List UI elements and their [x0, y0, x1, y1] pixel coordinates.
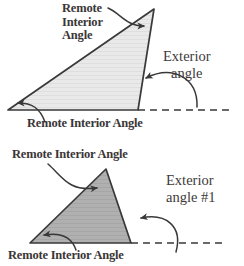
bottom-triangle [30, 169, 131, 243]
bottom-exterior-angle-arc [141, 217, 178, 252]
bottom-lower-remote-interior-angle-label: Remote Interior Angle [8, 249, 124, 262]
top-exterior-angle-label: Exterior angle [163, 48, 211, 81]
geometry-canvas [0, 0, 244, 266]
bottom-upper-remote-interior-angle-label: Remote Interior Angle [12, 148, 128, 161]
top-base-remote-interior-angle-label: Remote Interior Angle [27, 117, 143, 130]
bottom-exterior-angle-label: Exterior angle #1 [166, 172, 216, 205]
figure-root: Remote Interior Angle Exterior angle Rem… [0, 0, 244, 266]
top-remote-interior-angle-label: Remote Interior Angle [62, 2, 103, 43]
